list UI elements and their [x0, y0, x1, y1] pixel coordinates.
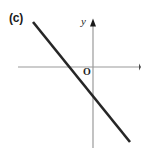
y-axis-label: y — [81, 16, 86, 27]
y-axis — [90, 19, 96, 149]
x-axis-arrowhead-icon — [139, 64, 141, 71]
origin-label: O — [83, 67, 91, 77]
x-axis — [18, 64, 141, 71]
figure-panel: (c) y O — [0, 0, 145, 153]
y-axis-arrowhead-icon — [90, 19, 96, 27]
panel-label: (c) — [9, 12, 23, 24]
plotted-line — [33, 22, 130, 142]
